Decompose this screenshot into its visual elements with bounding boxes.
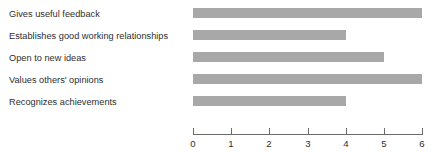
axis-tick (308, 128, 309, 134)
axis-tick-label: 5 (374, 139, 394, 149)
bar (193, 8, 422, 18)
axis-tick (422, 128, 423, 134)
axis-tick-label: 1 (221, 139, 241, 149)
axis-tick (346, 128, 347, 134)
axis-baseline (193, 134, 423, 135)
axis-tick-label: 3 (298, 139, 318, 149)
horizontal-bar-chart: Gives useful feedback Establishes good w… (0, 0, 437, 154)
axis-tick-label: 2 (259, 139, 279, 149)
axis-tick (384, 128, 385, 134)
axis-tick (269, 128, 270, 134)
bar (193, 74, 422, 84)
axis-tick-label: 0 (183, 139, 203, 149)
plot-area (0, 0, 437, 120)
axis-tick-label: 6 (412, 139, 432, 149)
axis-tick (231, 128, 232, 134)
axis-tick (193, 128, 194, 134)
bar (193, 30, 346, 40)
bar (193, 52, 384, 62)
bar (193, 96, 346, 106)
axis-tick-label: 4 (336, 139, 356, 149)
